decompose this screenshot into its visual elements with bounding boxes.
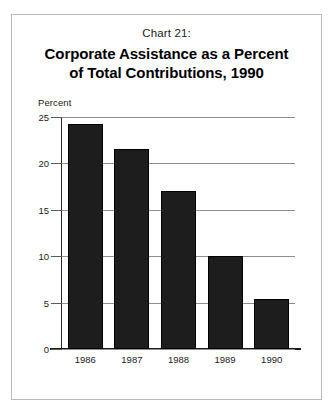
y-axis-tick <box>51 349 62 350</box>
y-axis-tick-label: 15 <box>38 204 49 215</box>
chart-number-label: Chart 21: <box>11 26 322 41</box>
x-axis-tick-label: 1986 <box>75 354 96 365</box>
y-axis-title: Percent <box>38 97 71 108</box>
bar-1986 <box>68 124 103 349</box>
x-axis-tick-label: 1990 <box>261 354 282 365</box>
figure-page: Chart 21: Corporate Assistance as a Perc… <box>0 0 335 415</box>
x-axis-tick-label: 1987 <box>121 354 142 365</box>
y-axis-tick <box>51 256 62 257</box>
page-title: Corporate Assistance as a Percent of Tot… <box>11 44 322 82</box>
y-gridline: 25 <box>62 117 295 118</box>
y-axis-tick-label: 20 <box>38 158 49 169</box>
y-axis-tick <box>51 117 62 118</box>
y-axis-tick-label: 5 <box>44 297 49 308</box>
bar-1989 <box>208 256 243 349</box>
page-title-line-1: Corporate Assistance as a Percent <box>45 45 289 62</box>
plot-area: 0510152025 <box>62 117 295 349</box>
y-axis-tick-label: 25 <box>38 112 49 123</box>
y-axis-tick <box>51 303 62 304</box>
bar-1990 <box>254 299 289 349</box>
y-gridline: 0 <box>62 349 295 350</box>
title-block: Chart 21: Corporate Assistance as a Perc… <box>11 26 322 82</box>
y-axis-tick <box>51 210 62 211</box>
bar-1988 <box>161 191 196 349</box>
x-axis-tick-label: 1989 <box>215 354 236 365</box>
bar-1987 <box>114 149 149 349</box>
y-axis-tick-label: 10 <box>38 251 49 262</box>
y-axis-tick-label: 0 <box>44 344 49 355</box>
y-axis-tick <box>51 163 62 164</box>
x-axis-tick-label: 1988 <box>168 354 189 365</box>
page-title-line-2: of Total Contributions, 1990 <box>11 63 322 82</box>
